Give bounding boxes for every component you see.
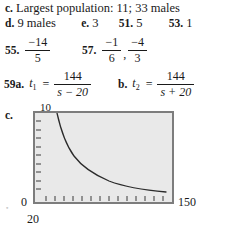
- answer-label-59a: 59a.: [4, 78, 24, 90]
- answer-label-e: e.: [81, 17, 89, 29]
- fraction-denominator: s + 20: [157, 86, 194, 99]
- answer-label-57: 57.: [82, 44, 96, 56]
- y-axis-ticks: [36, 121, 41, 189]
- graph-figure: c. 10 0 20 150 ◦: [0, 100, 228, 235]
- variable-subscript: 1: [32, 83, 36, 92]
- answer-line-c: c. Largest population: 11; 33 males: [5, 1, 180, 16]
- fraction-57-first: −1 6: [102, 36, 121, 64]
- fraction-denominator: s − 20: [54, 86, 91, 99]
- answer-item-57: 57. −1 6 , −4 3: [82, 36, 148, 64]
- fraction-numerator: −4: [128, 36, 147, 49]
- answer-key-page: c. Largest population: 11; 33 males d. 9…: [0, 0, 228, 235]
- answer-label-59b: b.: [118, 78, 127, 90]
- fraction-denominator: 6: [106, 52, 118, 65]
- answer-line-d: d. 9 males e. 3 51. 5 53. 1: [5, 16, 193, 31]
- answer-label-c: c.: [5, 2, 13, 14]
- fraction-separator: ,: [123, 47, 126, 64]
- answer-label-51: 51.: [119, 17, 133, 29]
- answer-text-51: 5: [136, 16, 142, 30]
- plot-area: [33, 111, 174, 204]
- answer-label-53: 53.: [169, 17, 183, 29]
- variable-t1: t1: [29, 76, 36, 92]
- variable-t2: t2: [132, 76, 139, 92]
- answer-item-59a: 59a. t1 = 144 s − 20: [4, 70, 92, 98]
- answer-text-c: Largest population: 11; 33 males: [16, 1, 180, 15]
- y-axis-min-label: 0: [21, 195, 27, 210]
- answer-item-59b: b. t2 = 144 s + 20: [118, 70, 195, 98]
- fraction-numerator: 144: [61, 70, 85, 83]
- x-axis-max-label: 150: [178, 195, 196, 210]
- answer-text-d: 9 males: [17, 16, 56, 30]
- fraction-59a: 144 s − 20: [54, 70, 91, 98]
- fraction-numerator: 144: [164, 70, 188, 83]
- answer-label-d: d.: [5, 17, 14, 29]
- answer-item-55: 55. −14 5: [5, 36, 51, 64]
- fraction-numerator: −1: [102, 36, 121, 49]
- fraction-denominator: 3: [132, 52, 144, 65]
- equals-sign: =: [146, 77, 153, 92]
- answer-text-53: 1: [186, 16, 192, 30]
- equals-sign: =: [42, 77, 49, 92]
- fraction-59b: 144 s + 20: [157, 70, 194, 98]
- variable-subscript: 2: [136, 83, 140, 92]
- x-axis-min-label: 20: [27, 212, 39, 227]
- margin-mark: ◦: [6, 204, 8, 212]
- fraction-numerator: −14: [25, 36, 50, 49]
- data-curve: [57, 113, 166, 192]
- x-axis-ticks: [46, 196, 163, 201]
- answer-label-59c: c.: [5, 109, 13, 121]
- fraction-55: −14 5: [25, 36, 50, 64]
- fraction-denominator: 5: [32, 52, 44, 65]
- curve-plot: [35, 113, 172, 202]
- answer-text-e: 3: [92, 16, 98, 30]
- fraction-57-second: −4 3: [128, 36, 147, 64]
- answer-label-55: 55.: [5, 44, 19, 56]
